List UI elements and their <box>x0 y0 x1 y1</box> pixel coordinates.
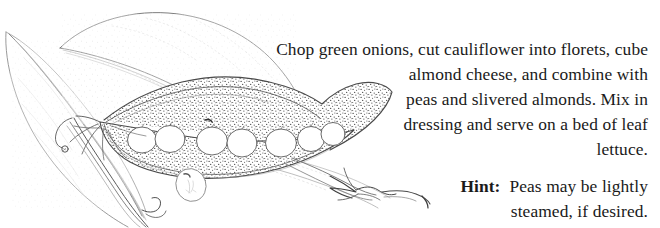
recipe-line: almond cheese, and combine with <box>250 62 648 87</box>
hint-label: Hint: <box>460 176 500 196</box>
hint-note: Hint: Peas may be lightly steamed, if de… <box>400 174 648 224</box>
hint-first-line: Hint: Peas may be lightly <box>400 174 648 199</box>
recipe-line: lettuce. <box>250 137 648 162</box>
recipe-illustration-page: Chop green onions, cut cauliflower into … <box>0 0 660 228</box>
recipe-line: Chop green onions, cut cauliflower into … <box>250 37 648 62</box>
recipe-line: peas and slivered almonds. Mix in <box>250 87 648 112</box>
recipe-instructions: Chop green onions, cut cauliflower into … <box>250 37 648 162</box>
hint-line: steamed, if desired. <box>400 199 648 224</box>
recipe-line: dressing and serve on a bed of leaf <box>250 112 648 137</box>
hint-line: Peas may be lightly <box>509 176 648 196</box>
